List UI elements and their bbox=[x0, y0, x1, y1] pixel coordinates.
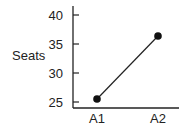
y-tick-label: 35 bbox=[49, 37, 63, 52]
y-axis-title: Seats bbox=[12, 48, 46, 63]
series-seats bbox=[93, 32, 162, 103]
y-tick-label: 40 bbox=[49, 8, 63, 23]
line-chart: 40 35 30 25 Seats A1 A2 bbox=[0, 0, 183, 127]
series-line bbox=[97, 36, 158, 99]
y-tick-label: 30 bbox=[49, 66, 63, 81]
data-point-a1 bbox=[93, 95, 101, 103]
data-point-a2 bbox=[154, 32, 162, 40]
x-tick-label: A1 bbox=[89, 111, 105, 126]
x-tick-label: A2 bbox=[150, 111, 166, 126]
y-axis: 40 35 30 25 Seats bbox=[12, 6, 79, 110]
x-axis: A1 A2 bbox=[73, 108, 179, 126]
y-tick-label: 25 bbox=[49, 95, 63, 110]
